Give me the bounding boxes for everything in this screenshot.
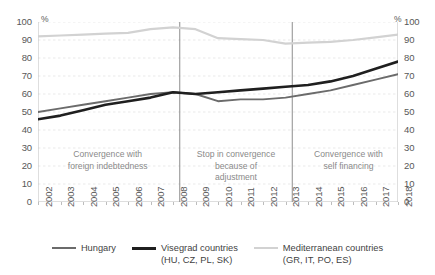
x-tick-mark-2014 <box>308 202 309 205</box>
series-line <box>38 27 398 43</box>
x-tick-2006: 2006 <box>133 187 144 207</box>
x-tick-mark-2011 <box>241 202 242 205</box>
y-tick-right-70: 70 <box>404 71 430 81</box>
x-tick-mark-2016 <box>353 202 354 205</box>
y-tick-right-50: 50 <box>404 107 430 117</box>
y-tick-left-90: 90 <box>6 35 32 45</box>
y-tick-left-20: 20 <box>6 161 32 171</box>
y-tick-left-50: 50 <box>6 107 32 117</box>
y-tick-left-100: 100 <box>6 17 32 27</box>
chart-legend: HungaryVisegrad countries (HU, CZ, PL, S… <box>0 242 435 266</box>
x-tick-2014: 2014 <box>313 187 324 207</box>
y-tick-left-60: 60 <box>6 89 32 99</box>
y-tick-left-70: 70 <box>6 71 32 81</box>
x-tick-2008: 2008 <box>178 187 189 207</box>
x-tick-2013: 2013 <box>290 187 301 207</box>
x-tick-2010: 2010 <box>223 187 234 207</box>
x-tick-mark-2005 <box>106 202 107 205</box>
y-tick-right-40: 40 <box>404 125 430 135</box>
x-tick-mark-2013 <box>286 202 287 205</box>
x-tick-mark-2012 <box>263 202 264 205</box>
legend-item-1[interactable]: Hungary <box>52 242 116 254</box>
y-tick-left-10: 10 <box>6 179 32 189</box>
y-tick-left-0: 0 <box>6 197 32 207</box>
legend-item-2[interactable]: Visegrad countries (HU, CZ, PL, SK) <box>132 242 238 266</box>
legend-label: Mediterranean countries (GR, IT, PO, ES) <box>283 242 383 266</box>
y-tick-left-40: 40 <box>6 125 32 135</box>
x-tick-2003: 2003 <box>65 187 76 207</box>
x-tick-mark-2010 <box>218 202 219 205</box>
chart-figure: % % 1009080706050403020100 1009080706050… <box>0 0 435 275</box>
series-line <box>38 62 398 120</box>
x-tick-mark-2002 <box>38 202 39 205</box>
annotation-2: Stop in convergence because of adjustmen… <box>181 149 291 184</box>
x-tick-2017: 2017 <box>380 187 391 207</box>
x-tick-2009: 2009 <box>200 187 211 207</box>
x-tick-2002: 2002 <box>43 187 54 207</box>
y-tick-right-60: 60 <box>404 89 430 99</box>
annotation-1: Convergence with foreign indebtedness <box>53 149 163 172</box>
x-tick-mark-2018 <box>398 202 399 205</box>
y-tick-left-30: 30 <box>6 143 32 153</box>
x-tick-mark-2017 <box>376 202 377 205</box>
y-tick-left-80: 80 <box>6 53 32 63</box>
x-tick-mark-2008 <box>173 202 174 205</box>
x-tick-mark-2015 <box>331 202 332 205</box>
legend-item-3[interactable]: Mediterranean countries (GR, IT, PO, ES) <box>254 242 383 266</box>
x-tick-mark-2009 <box>196 202 197 205</box>
legend-line-swatch-icon <box>132 247 156 250</box>
x-tick-2004: 2004 <box>88 187 99 207</box>
x-tick-2007: 2007 <box>155 187 166 207</box>
x-tick-mark-2007 <box>151 202 152 205</box>
x-tick-2016: 2016 <box>358 187 369 207</box>
annotation-3: Convergence with self financing <box>294 149 404 172</box>
y-tick-right-90: 90 <box>404 35 430 45</box>
x-tick-2005: 2005 <box>110 187 121 207</box>
y-tick-right-20: 20 <box>404 161 430 171</box>
x-tick-mark-2006 <box>128 202 129 205</box>
x-tick-2015: 2015 <box>335 187 346 207</box>
legend-line-swatch-icon <box>254 247 278 249</box>
y-tick-right-30: 30 <box>404 143 430 153</box>
y-tick-right-80: 80 <box>404 53 430 63</box>
x-tick-2012: 2012 <box>268 187 279 207</box>
legend-label: Visegrad countries (HU, CZ, PL, SK) <box>161 242 238 266</box>
x-tick-mark-2003 <box>61 202 62 205</box>
legend-label: Hungary <box>81 242 116 254</box>
y-tick-right-100: 100 <box>404 17 430 27</box>
x-tick-mark-2004 <box>83 202 84 205</box>
x-tick-2011: 2011 <box>245 187 256 207</box>
x-tick-2018: 2018 <box>403 187 414 207</box>
legend-line-swatch-icon <box>52 247 76 249</box>
